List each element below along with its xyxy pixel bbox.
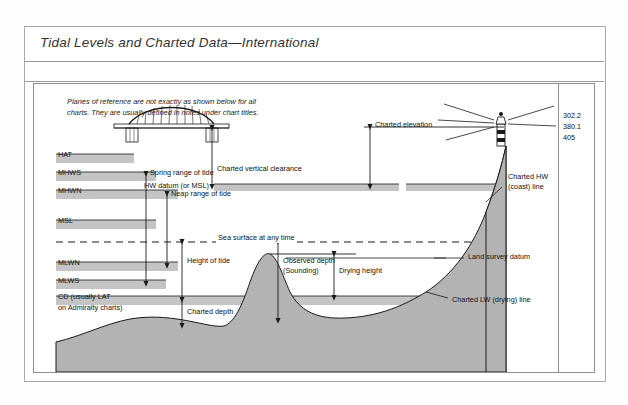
label-height-of-tide: Height of tide bbox=[187, 256, 230, 266]
label-cd-line2: on Admiralty charts) bbox=[58, 303, 122, 313]
label-sea-surface: Sea surface at any time bbox=[216, 233, 297, 243]
label-mlwn: MLWN bbox=[58, 258, 80, 268]
label-drying-height: Drying height bbox=[339, 266, 382, 276]
label-cd-line1: CD (usually LAT bbox=[58, 292, 111, 302]
label-hw-datum: HW datum (or MSL) bbox=[144, 181, 209, 191]
hw-datum-bar bbox=[214, 184, 502, 191]
label-charted-hw-line2: (coast) line bbox=[508, 182, 544, 192]
label-spring-range: Spring range of tide bbox=[150, 168, 214, 178]
lighthouse-icon bbox=[438, 104, 556, 146]
label-mlws: MLWS bbox=[58, 276, 79, 286]
diagram-graphics bbox=[34, 84, 594, 372]
label-land-survey-datum: Land survey datum bbox=[468, 252, 530, 262]
elevation-value-1: 302.2 bbox=[563, 111, 581, 122]
document-page: Tidal Levels and Charted Data—Internatio… bbox=[0, 0, 628, 405]
label-charted-lw-line: Charted LW (drying) line bbox=[452, 295, 531, 305]
label-mhws: MHWS bbox=[58, 168, 81, 178]
label-vertical-clearance: Charted vertical clearance bbox=[217, 164, 302, 174]
label-hat: HAT bbox=[58, 150, 72, 160]
label-charted-depth: Charted depth bbox=[187, 307, 233, 317]
elevation-values: 302.2 380.1 405 bbox=[563, 111, 581, 143]
label-charted-hw-line1: Charted HW bbox=[508, 172, 548, 182]
page-title: Tidal Levels and Charted Data—Internatio… bbox=[40, 35, 319, 50]
label-observed-depth-line2: (Sounding) bbox=[283, 266, 319, 276]
elevation-values-box: 302.2 380.1 405 bbox=[558, 84, 594, 372]
elevation-value-2: 380.1 bbox=[563, 122, 581, 133]
title-bar: Tidal Levels and Charted Data—Internatio… bbox=[24, 26, 604, 62]
elevation-value-3: 405 bbox=[563, 133, 581, 144]
label-observed-depth-line1: Observed depth bbox=[283, 256, 335, 266]
label-mhwn: MHWN bbox=[58, 186, 82, 196]
label-msl: MSL bbox=[58, 216, 73, 226]
label-charted-elevation: Charted elevation bbox=[375, 120, 432, 130]
title-separator bbox=[24, 62, 604, 82]
tidal-diagram: Planes of reference are not exactly as s… bbox=[33, 83, 595, 373]
